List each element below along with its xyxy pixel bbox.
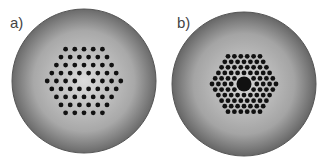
- air-hole: [261, 104, 266, 109]
- air-hole: [238, 109, 243, 114]
- air-hole: [72, 95, 77, 100]
- air-hole: [248, 104, 253, 109]
- air-hole: [63, 47, 68, 52]
- air-hole: [59, 55, 64, 60]
- air-hole: [82, 95, 87, 100]
- air-hole: [222, 93, 227, 98]
- air-hole: [77, 87, 82, 92]
- air-hole: [267, 71, 272, 76]
- air-hole: [114, 87, 119, 92]
- air-hole: [258, 109, 263, 114]
- air-hole: [72, 63, 77, 68]
- air-hole: [226, 76, 231, 81]
- air-hole: [91, 79, 96, 84]
- air-hole: [68, 103, 73, 108]
- air-hole: [248, 93, 253, 98]
- air-hole: [59, 71, 64, 76]
- air-hole: [216, 82, 221, 87]
- air-hole: [238, 98, 243, 103]
- air-hole: [242, 59, 247, 64]
- air-hole: [86, 55, 91, 60]
- air-hole: [248, 71, 253, 76]
- air-hole: [82, 63, 87, 68]
- air-hole: [226, 87, 231, 92]
- air-hole: [216, 71, 221, 76]
- air-hole: [95, 87, 100, 92]
- hollow-core: [237, 77, 252, 92]
- air-hole: [254, 93, 259, 98]
- air-hole: [118, 79, 123, 84]
- air-hole: [114, 71, 119, 76]
- air-hole: [264, 65, 269, 70]
- air-hole: [213, 87, 218, 92]
- air-hole: [63, 63, 68, 68]
- air-hole: [267, 93, 272, 98]
- air-hole: [274, 82, 279, 87]
- air-hole: [219, 87, 224, 92]
- air-hole: [219, 98, 224, 103]
- air-hole: [100, 79, 105, 84]
- air-hole: [95, 55, 100, 60]
- air-hole: [251, 87, 256, 92]
- air-hole: [86, 71, 91, 76]
- air-hole: [72, 79, 77, 84]
- air-hole: [261, 59, 266, 64]
- air-hole: [235, 71, 240, 76]
- air-hole: [229, 104, 234, 109]
- air-hole: [232, 109, 237, 114]
- air-hole: [229, 82, 234, 87]
- air-hole: [270, 87, 275, 92]
- air-hole: [248, 59, 253, 64]
- air-hole: [68, 71, 73, 76]
- air-hole: [82, 47, 87, 52]
- air-hole: [251, 76, 256, 81]
- air-hole: [267, 82, 272, 87]
- air-hole: [229, 93, 234, 98]
- air-hole: [100, 95, 105, 100]
- air-hole: [254, 59, 259, 64]
- air-hole: [86, 103, 91, 108]
- air-hole: [226, 98, 231, 103]
- air-hole: [261, 93, 266, 98]
- panel-label-b: b): [177, 14, 190, 31]
- air-hole: [95, 103, 100, 108]
- air-hole: [251, 65, 256, 70]
- air-hole: [242, 104, 247, 109]
- air-hole: [242, 71, 247, 76]
- air-hole: [264, 98, 269, 103]
- air-hole: [238, 65, 243, 70]
- air-hole: [77, 55, 82, 60]
- air-hole: [68, 87, 73, 92]
- air-hole: [91, 110, 96, 115]
- air-hole: [105, 71, 110, 76]
- air-hole: [49, 87, 54, 92]
- air-hole: [72, 47, 77, 52]
- air-hole: [242, 93, 247, 98]
- air-hole: [109, 79, 114, 84]
- air-hole: [251, 98, 256, 103]
- air-hole: [232, 54, 237, 59]
- air-hole: [68, 55, 73, 60]
- air-hole: [258, 98, 263, 103]
- air-hole: [95, 71, 100, 76]
- air-hole: [77, 71, 82, 76]
- air-hole: [63, 79, 68, 84]
- air-hole: [109, 63, 114, 68]
- air-hole: [45, 79, 50, 84]
- air-hole: [270, 76, 275, 81]
- air-hole: [232, 65, 237, 70]
- air-hole: [219, 76, 224, 81]
- air-hole: [72, 110, 77, 115]
- air-hole: [54, 63, 59, 68]
- air-hole: [91, 63, 96, 68]
- air-hole: [109, 95, 114, 100]
- air-hole: [63, 95, 68, 100]
- air-hole: [251, 54, 256, 59]
- air-hole: [261, 71, 266, 76]
- air-hole: [232, 98, 237, 103]
- air-hole: [254, 71, 259, 76]
- air-hole: [235, 104, 240, 109]
- fiber-a-cross-section: [0, 0, 163, 163]
- air-hole: [105, 103, 110, 108]
- air-hole: [226, 109, 231, 114]
